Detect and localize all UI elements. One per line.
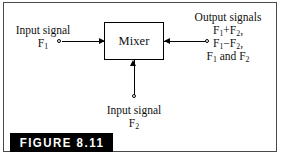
input-2-signal-subscript: 2 (135, 122, 139, 131)
output-expression-2-term-2-subscript: 2 (236, 42, 240, 51)
output-expression-2-trailing: , (240, 37, 243, 49)
input-2-label-group: Input signal F2 (96, 104, 172, 130)
output-expression-1-term-1-subscript: 1 (219, 29, 223, 38)
input-2-title: Input signal (96, 104, 172, 117)
output-expression-2: F1−F2, (180, 37, 276, 50)
mixer-block: Mixer (104, 22, 164, 60)
input-2-terminal-dot (132, 94, 136, 98)
input-1-arrowhead-icon (99, 38, 105, 44)
mixer-block-label: Mixer (118, 35, 149, 48)
output-expression-1: F1+F2, (180, 24, 276, 37)
output-expression-3-term-2-base: F (239, 50, 245, 62)
output-expression-3-term-1-base: F (207, 50, 213, 62)
output-expression-3-term-1-subscript: 1 (213, 55, 217, 64)
input-2-arrowhead-icon (130, 60, 136, 66)
output-expression-3: F1 and F2 (180, 50, 276, 63)
output-expression-3-operator: and (217, 50, 239, 62)
figure-caption-label: FIGURE 8.11 (19, 136, 104, 150)
figure-caption-banner: FIGURE 8.11 (10, 133, 113, 152)
input-1-title: Input signal (8, 24, 78, 37)
output-title: Output signals (180, 11, 276, 24)
output-expression-3-term-2-subscript: 2 (246, 55, 250, 64)
input-2-signal: F2 (96, 117, 172, 130)
input-1-label-group: Input signal F1 (8, 24, 78, 50)
output-expression-1-trailing: , (240, 24, 243, 36)
output-expression-1-term-2-subscript: 2 (236, 29, 240, 38)
output-label-group: Output signals F1+F2, F1−F2, F1 and F2 (180, 11, 276, 63)
figure-container: Mixer Input signal F1 Input signal F2 Ou… (0, 0, 282, 160)
input-1-signal: F1 (8, 37, 78, 50)
input-1-signal-subscript: 1 (44, 42, 48, 51)
output-arrowhead-icon (164, 38, 170, 44)
output-expression-2-term-1-subscript: 1 (219, 42, 223, 51)
